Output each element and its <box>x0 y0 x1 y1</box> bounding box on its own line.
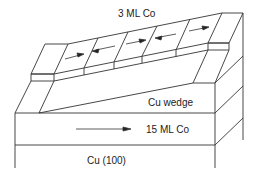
right-end-block <box>193 13 243 83</box>
label-cu-substrate: Cu (100) <box>87 156 126 166</box>
arrow-right-icon <box>189 26 209 31</box>
arrow-right-icon <box>65 53 84 59</box>
bottom-co-layer <box>15 86 243 113</box>
arrow-right-icon <box>126 39 146 44</box>
arrow-left-icon <box>155 34 176 40</box>
top-co-strip <box>54 13 222 81</box>
layer-stack-drawing <box>0 0 256 180</box>
left-end-block <box>15 44 68 113</box>
label-15ml-co: 15 ML Co <box>146 125 189 135</box>
arrow-left-icon <box>92 46 115 53</box>
arrow-right-icon <box>76 127 131 131</box>
label-cu-wedge: Cu wedge <box>148 98 193 108</box>
magnetization-arrows <box>65 26 209 131</box>
cu-wedge <box>39 56 243 113</box>
label-3ml-co: 3 ML Co <box>118 9 155 19</box>
diagram-canvas: 3 ML Co Cu wedge 15 ML Co Cu (100) <box>0 0 256 180</box>
